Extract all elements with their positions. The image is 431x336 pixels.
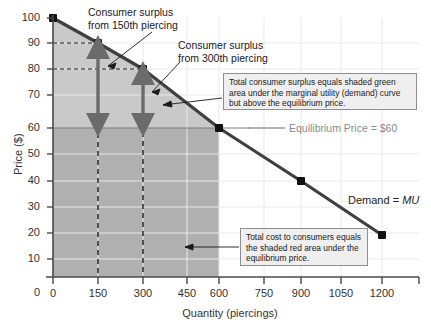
x-tick-marks — [53, 277, 419, 284]
callout-surplus-300-line2: from 300th piercing — [178, 52, 268, 65]
demand-curve-label: Demand = MU — [348, 194, 419, 206]
equilibrium-price-label: Equilibrium Price = $60 — [289, 122, 397, 134]
callout-surplus-150-line1: Consumer surplus — [88, 6, 173, 19]
demand-label-mu: MU — [402, 194, 419, 206]
y-tick-label-100: 100 — [14, 12, 40, 23]
consumer-surplus-region — [53, 18, 219, 128]
consumer-surplus-textbox: Total consumer surplus equals shaded gre… — [223, 73, 417, 110]
demand-label-prefix: Demand = — [348, 194, 402, 206]
x-tick-label-1200: 1200 — [362, 288, 402, 299]
y-tick-label-80: 80 — [14, 63, 40, 74]
y-tick-label-20: 20 — [14, 227, 40, 238]
y-tick-label-90: 90 — [14, 37, 40, 48]
x-tick-label-900: 900 — [281, 288, 321, 299]
total-cost-textbox: Total cost to consumers equals the shade… — [240, 228, 368, 266]
x-axis-title: Quantity (piercings) — [130, 307, 330, 319]
y-tick-label-40: 40 — [14, 175, 40, 186]
y-tick-marks — [47, 18, 53, 259]
x-tick-label-0: 0 — [33, 288, 73, 299]
x-tick-label-1050: 1050 — [321, 288, 361, 299]
y-tick-label-60: 60 — [14, 122, 40, 133]
y-tick-label-70: 70 — [14, 89, 40, 100]
total-cost-region — [53, 128, 219, 277]
x-tick-label-300: 300 — [123, 288, 163, 299]
x-tick-label-600: 600 — [199, 288, 239, 299]
x-tick-label-150: 150 — [78, 288, 118, 299]
callout-surplus-300-line1: Consumer surplus — [178, 39, 263, 52]
y-tick-label-10: 10 — [14, 253, 40, 264]
x-tick-label-750: 750 — [244, 288, 284, 299]
y-axis-title: Price ($) — [12, 133, 24, 175]
callout-surplus-150-line2: from 150th piercing — [88, 19, 178, 32]
chart-figure: 100 90 80 70 60 50 40 30 20 10 0 0 150 3… — [0, 0, 431, 336]
y-tick-label-30: 30 — [14, 201, 40, 212]
